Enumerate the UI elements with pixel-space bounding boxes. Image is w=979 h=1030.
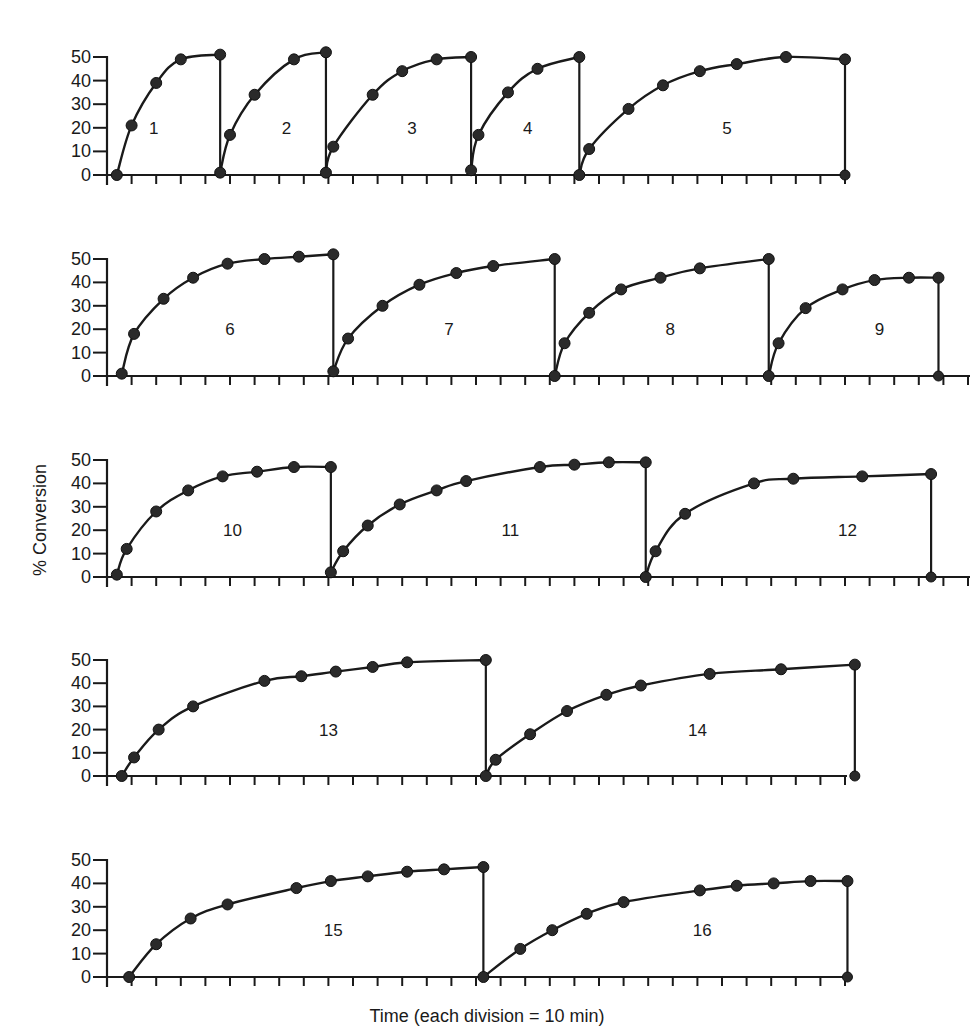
data-point <box>618 897 629 908</box>
data-point <box>217 471 228 482</box>
y-tick-label: 20 <box>71 319 91 339</box>
y-tick-label: 40 <box>71 473 91 493</box>
data-point <box>657 80 668 91</box>
data-point <box>215 49 226 60</box>
data-point <box>252 466 263 477</box>
conversion-curve <box>486 665 855 776</box>
y-tick-label: 0 <box>81 366 91 386</box>
run-label: 13 <box>319 721 338 740</box>
run-4: 4 <box>466 52 585 176</box>
y-tick-label: 20 <box>71 118 91 138</box>
data-point <box>151 77 162 88</box>
data-point <box>183 485 194 496</box>
conversion-curve <box>483 881 847 977</box>
data-point <box>151 939 162 950</box>
data-point <box>111 569 122 580</box>
x-axis-title: Time (each division = 10 min) <box>370 1006 605 1026</box>
conversion-curve <box>769 278 939 376</box>
conversion-curve <box>579 57 845 175</box>
data-point <box>694 66 705 77</box>
run-label: 6 <box>225 320 234 339</box>
data-point <box>367 89 378 100</box>
conversion-curve <box>129 867 483 977</box>
data-point <box>325 567 336 578</box>
y-tick-label: 40 <box>71 272 91 292</box>
data-point <box>933 371 943 381</box>
data-point <box>562 706 573 717</box>
data-point <box>188 272 199 283</box>
y-tick-label: 10 <box>71 944 91 964</box>
run-2: 2 <box>215 47 332 178</box>
run-10: 10 <box>111 462 336 581</box>
run-3: 3 <box>320 52 476 179</box>
data-point <box>849 659 860 670</box>
y-axis-title: % Conversion <box>30 464 50 576</box>
y-tick-label: 0 <box>81 766 91 786</box>
data-point <box>926 572 936 582</box>
data-point <box>473 129 484 140</box>
data-point <box>296 671 307 682</box>
data-point <box>903 272 914 283</box>
data-point <box>763 254 774 265</box>
data-point <box>532 63 543 74</box>
data-point <box>780 52 791 63</box>
y-tick-label: 10 <box>71 141 91 161</box>
conversion-curve <box>122 254 333 373</box>
data-point <box>461 476 472 487</box>
data-point <box>584 144 595 155</box>
run-label: 2 <box>282 119 291 138</box>
chart-panels: 0102030405012345010203040506789010203040… <box>71 47 970 987</box>
data-point <box>515 943 526 954</box>
run-label: 5 <box>722 119 731 138</box>
data-point <box>635 680 646 691</box>
y-tick-label: 50 <box>71 249 91 269</box>
y-tick-label: 20 <box>71 720 91 740</box>
y-tick-label: 10 <box>71 743 91 763</box>
data-point <box>502 87 513 98</box>
data-point <box>490 754 501 765</box>
data-point <box>466 165 477 176</box>
data-point <box>320 167 331 178</box>
data-point <box>362 871 373 882</box>
data-point <box>842 876 853 887</box>
y-tick-label: 0 <box>81 967 91 987</box>
data-point <box>748 478 759 489</box>
data-point <box>320 47 331 58</box>
data-point <box>549 254 560 265</box>
run-8: 8 <box>549 254 774 382</box>
run-label: 10 <box>223 521 242 540</box>
data-point <box>773 338 784 349</box>
data-point <box>259 254 270 265</box>
data-point <box>704 668 715 679</box>
data-point <box>480 655 491 666</box>
data-point <box>377 300 388 311</box>
data-point <box>601 689 612 700</box>
data-point <box>328 249 339 260</box>
data-point <box>525 729 536 740</box>
y-tick-label: 40 <box>71 71 91 91</box>
y-tick-label: 30 <box>71 897 91 917</box>
data-point <box>569 459 580 470</box>
data-point <box>850 771 860 781</box>
data-point <box>584 307 595 318</box>
data-point <box>367 661 378 672</box>
data-point <box>225 129 236 140</box>
data-point <box>480 771 491 782</box>
data-point <box>397 66 408 77</box>
data-point <box>188 701 199 712</box>
run-15: 15 <box>124 862 489 983</box>
data-point <box>466 52 477 63</box>
run-label: 1 <box>149 119 158 138</box>
data-point <box>574 52 585 63</box>
data-point <box>763 371 774 382</box>
data-point <box>616 284 627 295</box>
data-point <box>694 263 705 274</box>
data-point <box>325 462 336 473</box>
y-tick-label: 20 <box>71 920 91 940</box>
data-point <box>402 866 413 877</box>
data-point <box>151 506 162 517</box>
panel-row-4: 010203040501314 <box>71 650 860 786</box>
data-point <box>153 724 164 735</box>
conversion-curve <box>220 52 326 172</box>
conversion-curve <box>117 55 220 175</box>
